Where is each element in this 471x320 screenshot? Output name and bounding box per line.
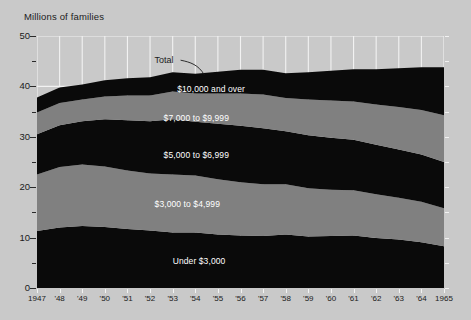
x-tick-label-1954: '54 bbox=[190, 294, 200, 303]
area-chart-svg bbox=[37, 36, 444, 288]
x-tick-label-1961: '61 bbox=[348, 294, 358, 303]
x-tick-1964 bbox=[421, 289, 422, 293]
stacked-bands bbox=[37, 67, 444, 288]
y-tick-major-right-0 bbox=[445, 288, 449, 289]
chart-figure: Millions of families 010203040501947'48'… bbox=[0, 0, 471, 320]
band-label-4: $3,000 to $4,999 bbox=[155, 199, 220, 209]
y-tick-minor-right-35 bbox=[445, 112, 449, 113]
y-tick-minor-15 bbox=[32, 212, 36, 213]
band-label-1: $10,000 and over bbox=[177, 84, 245, 94]
x-tick-label-1960: '60 bbox=[326, 294, 336, 303]
y-tick-major-50 bbox=[30, 36, 36, 37]
x-tick-label-1965: 1965 bbox=[435, 294, 453, 303]
y-tick-major-right-30 bbox=[445, 137, 449, 138]
y-tick-minor-45 bbox=[32, 61, 36, 62]
y-tick-label-50: 50 bbox=[4, 30, 30, 41]
x-tick-1965 bbox=[444, 289, 445, 293]
x-tick-label-1948: '48 bbox=[54, 294, 64, 303]
x-tick-1956 bbox=[241, 289, 242, 293]
band-label-3: $5,000 to $6,999 bbox=[164, 150, 229, 160]
y-tick-minor-25 bbox=[32, 162, 36, 163]
x-tick-1947 bbox=[37, 289, 38, 293]
stacked-area-plot bbox=[37, 36, 444, 288]
x-tick-1961 bbox=[354, 289, 355, 293]
x-tick-label-1955: '55 bbox=[213, 294, 223, 303]
x-tick-1955 bbox=[218, 289, 219, 293]
x-tick-1950 bbox=[105, 289, 106, 293]
x-tick-label-1956: '56 bbox=[235, 294, 245, 303]
band-label-2: $7,000 to $9,999 bbox=[164, 113, 229, 123]
y-tick-label-30: 30 bbox=[4, 131, 30, 142]
y-tick-minor-right-15 bbox=[445, 212, 449, 213]
x-tick-1949 bbox=[82, 289, 83, 293]
x-tick-label-1964: '64 bbox=[416, 294, 426, 303]
x-tick-label-1952: '52 bbox=[145, 294, 155, 303]
x-tick-1960 bbox=[331, 289, 332, 293]
x-tick-1963 bbox=[399, 289, 400, 293]
y-tick-label-0: 0 bbox=[4, 282, 30, 293]
y-tick-minor-right-5 bbox=[445, 263, 449, 264]
y-tick-major-0 bbox=[30, 288, 36, 289]
y-axis-title: Millions of families bbox=[24, 11, 104, 22]
x-tick-1962 bbox=[376, 289, 377, 293]
x-tick-label-1957: '57 bbox=[258, 294, 268, 303]
x-tick-label-1953: '53 bbox=[167, 294, 177, 303]
y-tick-minor-right-45 bbox=[445, 61, 449, 62]
x-tick-1948 bbox=[60, 289, 61, 293]
y-tick-label-10: 10 bbox=[4, 232, 30, 243]
y-tick-major-30 bbox=[30, 137, 36, 138]
y-tick-major-right-50 bbox=[445, 36, 449, 37]
y-tick-label-40: 40 bbox=[4, 80, 30, 91]
x-tick-1958 bbox=[286, 289, 287, 293]
x-tick-label-1962: '62 bbox=[371, 294, 381, 303]
y-tick-minor-35 bbox=[32, 112, 36, 113]
total-annotation-label: Total bbox=[155, 55, 174, 65]
y-tick-minor-right-25 bbox=[445, 162, 449, 163]
y-tick-major-right-20 bbox=[445, 187, 449, 188]
x-tick-label-1959: '59 bbox=[303, 294, 313, 303]
x-tick-label-1949: '49 bbox=[77, 294, 87, 303]
band-label-5: Under $3,000 bbox=[173, 256, 226, 266]
y-tick-minor-5 bbox=[32, 263, 36, 264]
y-tick-major-40 bbox=[30, 86, 36, 87]
x-tick-label-1951: '51 bbox=[122, 294, 132, 303]
x-tick-label-1963: '63 bbox=[394, 294, 404, 303]
x-tick-1952 bbox=[150, 289, 151, 293]
y-tick-major-right-10 bbox=[445, 238, 449, 239]
x-tick-1953 bbox=[173, 289, 174, 293]
y-tick-major-10 bbox=[30, 238, 36, 239]
y-tick-major-right-40 bbox=[445, 86, 449, 87]
y-tick-label-20: 20 bbox=[4, 181, 30, 192]
plot-area bbox=[37, 36, 444, 288]
x-tick-1954 bbox=[195, 289, 196, 293]
x-tick-label-1950: '50 bbox=[100, 294, 110, 303]
x-tick-label-1958: '58 bbox=[281, 294, 291, 303]
x-tick-1957 bbox=[263, 289, 264, 293]
y-tick-major-20 bbox=[30, 187, 36, 188]
x-tick-1951 bbox=[127, 289, 128, 293]
x-tick-label-1947: 1947 bbox=[28, 294, 46, 303]
x-tick-1959 bbox=[308, 289, 309, 293]
